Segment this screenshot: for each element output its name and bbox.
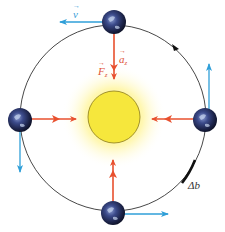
orbit-direction-arrow-icon (172, 44, 179, 51)
sun (88, 91, 140, 143)
planet-top (102, 10, 126, 34)
acceleration-label: az (119, 54, 127, 67)
orbit-diagram: v az Fz Δb (0, 0, 225, 232)
planet-bottom (101, 201, 125, 225)
force-label: Fz (98, 66, 107, 79)
diagram-canvas (0, 0, 225, 232)
velocity-label: v (73, 9, 78, 20)
arc-length-label: Δb (188, 180, 200, 191)
planet-right (193, 108, 217, 132)
planet-left (8, 108, 32, 132)
